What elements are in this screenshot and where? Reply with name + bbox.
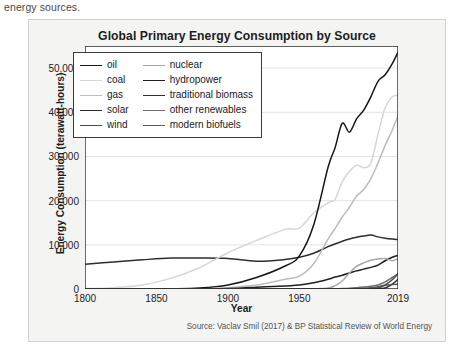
- legend-item-gas[interactable]: gas: [80, 88, 129, 102]
- source-note: Source: Vaclav Smil (2017) & BP Statisti…: [187, 322, 432, 331]
- legend-swatch-icon: [143, 110, 165, 111]
- legend-item-label: gas: [107, 88, 123, 102]
- legend-item-other-renewables[interactable]: other renewables: [143, 103, 253, 117]
- y-tick-label: 20,000: [48, 195, 79, 206]
- legend-item-label: nuclear: [170, 58, 203, 72]
- legend-swatch-icon: [143, 65, 165, 66]
- legend-item-oil[interactable]: oil: [80, 58, 129, 72]
- legend-item-modern-biofuels[interactable]: modern biofuels: [143, 118, 253, 132]
- legend-item-label: coal: [107, 73, 125, 87]
- legend-item-nuclear[interactable]: nuclear: [143, 58, 253, 72]
- legend-item-hydropower[interactable]: hydropower: [143, 73, 253, 87]
- x-tick-label: 1800: [74, 293, 96, 304]
- chart-title: Global Primary Energy Consumption by Sou…: [29, 29, 445, 43]
- legend-item-label: oil: [107, 58, 117, 72]
- x-tick-label: 1950: [288, 293, 310, 304]
- page-intro-text: energy sources.: [4, 1, 80, 13]
- legend-item-label: wind: [107, 118, 128, 132]
- x-axis-title: Year: [85, 303, 398, 314]
- chart-legend: oilnuclearcoalhydropowergastraditional b…: [73, 52, 262, 138]
- legend-item-solar[interactable]: solar: [80, 103, 129, 117]
- legend-swatch-icon: [143, 95, 165, 96]
- legend-item-label: traditional biomass: [170, 88, 253, 102]
- legend-swatch-icon: [80, 95, 102, 96]
- legend-item-traditional-biomass[interactable]: traditional biomass: [143, 88, 253, 102]
- legend-swatch-icon: [80, 80, 102, 81]
- y-tick-label: 30,000: [48, 151, 79, 162]
- x-tick-label: 1900: [217, 293, 239, 304]
- legend-swatch-icon: [80, 110, 102, 111]
- legend-swatch-icon: [143, 80, 165, 81]
- legend-item-wind[interactable]: wind: [80, 118, 129, 132]
- legend-item-label: other renewables: [170, 103, 247, 117]
- legend-swatch-icon: [80, 65, 102, 66]
- x-tick-label: 2019: [387, 293, 409, 304]
- x-tick-label: 1850: [145, 293, 167, 304]
- legend-item-label: hydropower: [170, 73, 222, 87]
- y-tick-label: 10,000: [48, 239, 79, 250]
- legend-swatch-icon: [80, 125, 102, 126]
- legend-item-label: modern biofuels: [170, 118, 241, 132]
- legend-swatch-icon: [143, 125, 165, 126]
- chart-card: Global Primary Energy Consumption by Sou…: [28, 19, 446, 342]
- legend-item-label: solar: [107, 103, 129, 117]
- legend-item-coal[interactable]: coal: [80, 73, 129, 87]
